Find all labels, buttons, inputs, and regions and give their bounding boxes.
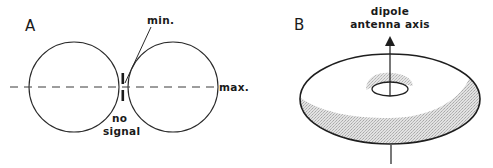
axis-label-line1: dipole: [371, 5, 409, 17]
dipole-element-upper: [122, 73, 125, 84]
panel-b: B dipole antenna axis: [290, 5, 490, 164]
panel-b-label: B: [294, 16, 304, 34]
no-signal-label-line2: signal: [103, 125, 140, 137]
axis-label-line2: antenna axis: [350, 18, 430, 30]
max-label: max.: [219, 81, 249, 93]
min-label: min.: [147, 14, 174, 26]
panel-a-label: A: [25, 17, 36, 35]
min-pointer-line: [125, 27, 151, 83]
dipole-element-lower: [122, 90, 125, 101]
panel-a: A min. max. no signal: [10, 14, 249, 137]
axis-arrowhead-icon: [385, 36, 395, 46]
figure-svg: A min. max. no signal B dipole antenna a…: [0, 0, 493, 168]
dipole-radiation-figure: A min. max. no signal B dipole antenna a…: [0, 0, 493, 168]
no-signal-label-line1: no: [112, 112, 127, 124]
